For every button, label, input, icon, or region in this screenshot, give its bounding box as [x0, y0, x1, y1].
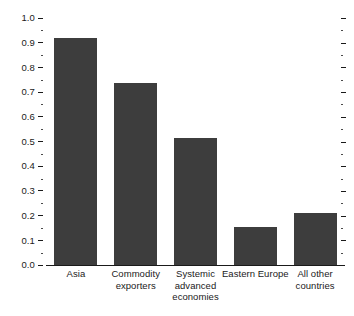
y-axis-minor-tick [41, 80, 43, 81]
bars-group [46, 0, 345, 265]
bar [114, 83, 157, 265]
y-axis-minor-tick [41, 228, 43, 229]
y-axis-minor-tick [41, 129, 43, 130]
y-axis-tick-label: 0.9 [21, 38, 35, 48]
x-axis-label: All othercountries [279, 268, 351, 291]
y-axis-minor-tick [41, 104, 43, 105]
y-axis-tick-mark [38, 141, 43, 142]
y-axis-tick-mark [38, 18, 43, 19]
bar [54, 38, 97, 265]
y-axis-tick-mark [38, 240, 43, 241]
y-axis-minor-tick [41, 30, 43, 31]
y-axis-tick-label: 1.0 [21, 13, 35, 23]
y-axis-tick-label: 0.1 [21, 236, 35, 246]
y-axis-tick-label: 0.8 [21, 63, 35, 73]
y-axis-minor-tick [41, 179, 43, 180]
y-axis-minor-tick [41, 55, 43, 56]
x-axis-label-line: countries [279, 280, 351, 292]
y-axis-minor-tick [41, 203, 43, 204]
x-axis-labels: AsiaCommodityexportersSystemicadvancedec… [46, 268, 345, 316]
y-axis-tick-label: 0.2 [21, 211, 35, 221]
y-axis-tick-mark [38, 116, 43, 117]
bar [234, 227, 277, 265]
y-axis-tick-label: 0.6 [21, 112, 35, 122]
y-axis-tick-label: 0.5 [21, 137, 35, 147]
x-axis-baseline [46, 265, 345, 266]
bar [294, 213, 337, 265]
y-axis-tick-label: 0.0 [21, 260, 35, 270]
y-axis-tick-label: 0.3 [21, 186, 35, 196]
y-axis: 0.00.10.20.30.40.50.60.70.80.91.0 [0, 0, 46, 275]
bar [174, 138, 217, 265]
y-axis-tick-mark [38, 215, 43, 216]
y-axis-tick-mark [38, 265, 43, 266]
x-axis-label-line: All other [279, 268, 351, 280]
y-axis-tick-label: 0.4 [21, 161, 35, 171]
y-axis-minor-tick [41, 253, 43, 254]
x-axis-label-line: economies [160, 291, 232, 303]
y-axis-tick-label: 0.7 [21, 87, 35, 97]
y-axis-tick-mark [38, 166, 43, 167]
y-axis-tick-mark [38, 190, 43, 191]
y-axis-tick-mark [38, 67, 43, 68]
bar-chart: 0.00.10.20.30.40.50.60.70.80.91.0 AsiaCo… [0, 0, 354, 316]
x-axis-label-line: advanced [160, 280, 232, 292]
y-axis-minor-tick [41, 154, 43, 155]
y-axis-tick-mark [38, 92, 43, 93]
y-axis-tick-mark [38, 42, 43, 43]
